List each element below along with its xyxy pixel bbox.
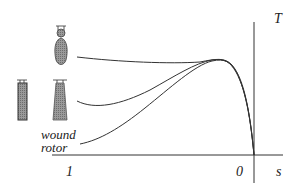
wound-rotor-curve — [80, 60, 254, 155]
double-cage-rotor-icon — [55, 26, 67, 65]
deep-bar-curve — [77, 60, 254, 156]
x-tick-label-0: 0 — [236, 165, 243, 179]
torque-slip-diagram: T s 1 0 wound rotor — [0, 0, 298, 189]
deep-bar-rotor-icon — [17, 80, 27, 120]
wound-rotor-label-line2: rotor — [41, 141, 67, 154]
diagram-canvas — [0, 0, 298, 189]
x-axis-label: s — [276, 165, 281, 179]
x-tick-label-1: 1 — [66, 165, 73, 179]
double-cage-curve — [77, 57, 254, 155]
tapered-bar-rotor-icon — [53, 80, 67, 120]
y-axis-label: T — [274, 12, 282, 26]
